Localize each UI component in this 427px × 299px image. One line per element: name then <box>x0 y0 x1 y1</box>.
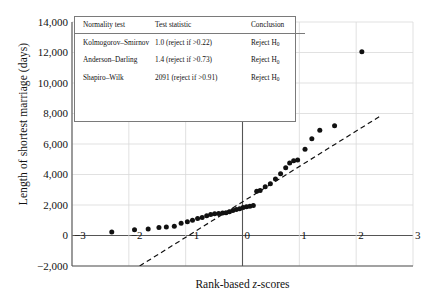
cell-conclusion: Reject H0 <box>251 34 305 52</box>
x-tick-label: 2 <box>358 230 388 241</box>
y-tick-label: 4,000 <box>12 169 68 180</box>
data-point <box>185 219 190 224</box>
cell-test-statistic: 1.0 (reject if >0.22) <box>155 34 251 52</box>
y-tick-label: 6,000 <box>12 139 68 150</box>
cell-test-statistic: 2091 (reject if >0.91) <box>155 69 251 87</box>
cell-test-name: Kolmogorov–Smirnov <box>75 34 155 52</box>
x-axis-title: Rank-based z-scores <box>72 278 413 290</box>
data-point <box>283 165 288 170</box>
data-point <box>200 215 205 220</box>
x-tick-label: −1 <box>188 230 218 241</box>
data-point <box>273 177 278 182</box>
x-tick-label: 3 <box>415 230 427 241</box>
data-point <box>263 184 268 189</box>
y-tick-label: 0 <box>12 230 68 241</box>
table-row: Anderson–Darling1.4 (reject if >0.73)Rej… <box>75 52 305 70</box>
y-tick-label: 8,000 <box>12 108 68 119</box>
table-row: Shapiro–Wilk2091 (reject if >0.91)Reject… <box>75 69 305 87</box>
cell-conclusion: Reject H0 <box>251 52 305 70</box>
data-point <box>195 216 200 221</box>
table-header-test: Normality test <box>75 17 155 34</box>
y-tick-label: 12,000 <box>12 47 68 58</box>
x-axis-title-post: -scores <box>257 278 290 290</box>
table-header-statistic: Test statistic <box>155 17 251 34</box>
cell-test-name: Shapiro–Wilk <box>75 69 155 87</box>
normality-test-table: Normality test Test statistic Conclusion… <box>74 16 296 122</box>
cell-test-name: Anderson–Darling <box>75 52 155 70</box>
data-point <box>164 224 169 229</box>
table-body: Kolmogorov–Smirnov1.0 (reject if >0.22)R… <box>75 34 305 87</box>
data-point <box>172 224 177 229</box>
table-header-row: Normality test Test statistic Conclusion <box>75 17 305 34</box>
data-point <box>190 218 195 223</box>
data-point <box>268 181 273 186</box>
data-point <box>309 136 314 141</box>
data-point <box>109 229 114 234</box>
table-header-conclusion: Conclusion <box>251 17 305 34</box>
cell-test-statistic: 1.4 (reject if >0.73) <box>155 52 251 70</box>
y-tick-label: 10,000 <box>12 78 68 89</box>
y-tick-label: −2,000 <box>12 261 68 272</box>
cell-conclusion: Reject H0 <box>251 69 305 87</box>
data-point <box>251 203 256 208</box>
table-row: Kolmogorov–Smirnov1.0 (reject if >0.22)R… <box>75 34 305 52</box>
x-axis-title-pre: Rank-based <box>195 278 252 290</box>
x-tick-label: 1 <box>301 230 331 241</box>
data-point <box>258 188 263 193</box>
data-point <box>278 171 283 176</box>
x-tick-label: 0 <box>245 230 275 241</box>
data-point <box>179 221 184 226</box>
y-tick-label: 2,000 <box>12 200 68 211</box>
x-tick-label: −2 <box>131 230 161 241</box>
data-point <box>332 123 337 128</box>
data-point <box>303 147 308 152</box>
x-tick-label: −3 <box>74 230 104 241</box>
qq-plot-figure: Length of shortest marriage (days) Rank-… <box>0 0 427 299</box>
data-point <box>317 128 322 133</box>
data-point <box>295 158 300 163</box>
data-point <box>359 49 364 54</box>
y-tick-label: 14,000 <box>12 17 68 28</box>
